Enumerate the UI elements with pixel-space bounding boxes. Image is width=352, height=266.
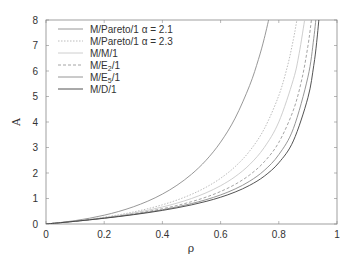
y-tick-label: 8 (32, 15, 38, 26)
y-axis-label: A (10, 117, 23, 127)
legend-label: M/E5/1 (90, 72, 120, 85)
y-tick-label: 3 (32, 142, 38, 153)
series-line-4 (46, 12, 312, 224)
y-tick-label: 0 (32, 219, 38, 230)
legend-label: M/E2/1 (90, 60, 120, 73)
legend-label: M/D/1 (90, 84, 117, 95)
series-line-6 (46, 12, 320, 224)
line-chart: 00.20.40.60.81 012345678 M/Pareto/1 α = … (0, 0, 352, 266)
x-tick-label: 0.6 (214, 229, 228, 240)
x-tick-label: 0.4 (155, 229, 169, 240)
legend-item: M/D/1 (58, 84, 117, 95)
legend-item: M/Pareto/1 α = 2.1 (58, 24, 173, 35)
legend-item: M/E2/1 (58, 60, 120, 73)
legend: M/Pareto/1 α = 2.1M/Pareto/1 α = 2.3M/M/… (58, 24, 173, 95)
y-tick-label: 4 (32, 117, 38, 128)
x-tick-label: 0.2 (97, 229, 111, 240)
legend-item: M/Pareto/1 α = 2.3 (58, 36, 173, 47)
series-layer (46, 11, 320, 224)
x-axis-label: ρ (188, 242, 194, 255)
x-tick-label: 0.8 (272, 229, 286, 240)
y-tick-label: 7 (32, 40, 38, 51)
x-tick-label: 0 (43, 229, 49, 240)
series-line-5 (46, 11, 317, 224)
legend-item: M/E5/1 (58, 72, 120, 85)
y-tick-label: 1 (32, 193, 38, 204)
x-axis-ticks: 00.20.40.60.81 (43, 20, 340, 240)
legend-label: M/Pareto/1 α = 2.3 (90, 36, 173, 47)
series-line-3 (46, 18, 305, 224)
x-tick-label: 1 (334, 229, 340, 240)
y-tick-label: 2 (32, 168, 38, 179)
legend-label: M/Pareto/1 α = 2.1 (90, 24, 173, 35)
legend-item: M/M/1 (58, 48, 118, 59)
legend-label: M/M/1 (90, 48, 118, 59)
y-tick-label: 6 (32, 66, 38, 77)
y-tick-label: 5 (32, 91, 38, 102)
